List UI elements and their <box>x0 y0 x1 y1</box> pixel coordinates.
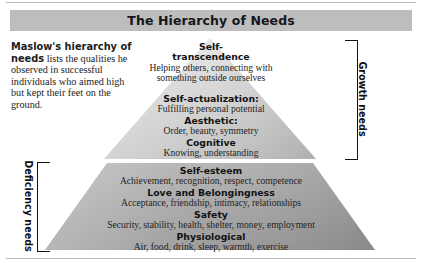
growth-needs-label: Growth needs <box>357 61 368 136</box>
tier-safety-sub: Security, stability, health, shelter, mo… <box>0 220 422 231</box>
tier-safety: Safety Security, stability, health, shel… <box>0 210 422 231</box>
tier-physiological: Physiological Air, food, drink, sleep, w… <box>0 232 422 253</box>
tier-physiological-sub: Air, food, drink, sleep, warmth, exercis… <box>0 242 422 253</box>
tier-cognitive-sub: Knowing, understanding <box>0 148 422 159</box>
tier-self-esteem-sub: Achievement, recognition, respect, compe… <box>0 176 422 187</box>
tier-love-and-belongingness-sub: Acceptance, friendship, intimacy, relati… <box>0 198 422 209</box>
deficiency-needs-bracket <box>37 162 50 252</box>
tier-cognitive: Cognitive Knowing, understanding <box>0 138 422 159</box>
deficiency-needs-label: Deficiency needs <box>23 160 34 252</box>
maslow-hierarchy-figure: The Hierarchy of Needs Maslow's hierarch… <box>0 0 422 267</box>
tier-self-esteem: Self-esteem Achievement, recognition, re… <box>0 166 422 187</box>
tier-love-and-belongingness: Love and Belongingness Acceptance, frien… <box>0 188 422 209</box>
